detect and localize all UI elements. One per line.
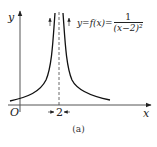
function-formula: y=f(x)= 1 (x−2)² (77, 12, 143, 33)
function-label: y=f(x)= (77, 18, 113, 28)
x-axis-label: x (143, 108, 149, 119)
fraction-denominator: (x−2)² (114, 23, 143, 33)
origin-label: O (10, 107, 19, 118)
fraction: 1 (x−2)² (114, 12, 143, 33)
asymptote-label: 2 (56, 107, 63, 118)
y-axis-label: y (8, 12, 14, 23)
curve-left-branch (10, 13, 55, 101)
fraction-numerator: 1 (125, 12, 131, 22)
figure-caption: (a) (0, 124, 157, 134)
